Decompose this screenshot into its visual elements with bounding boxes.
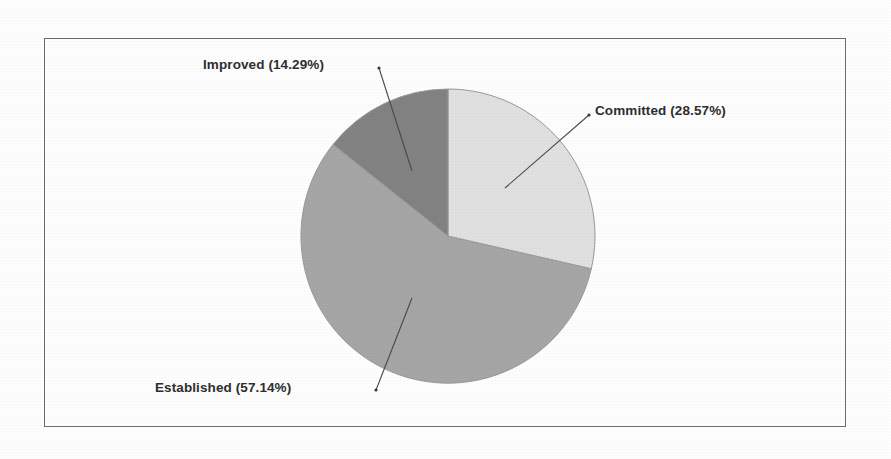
pie-chart-graphic (0, 0, 891, 459)
leader-dot-improved (377, 66, 380, 69)
leader-dot-committed (587, 113, 590, 116)
pie-label-established: Established (57.14%) (155, 381, 291, 396)
pie-chart-figure: Improved (14.29%) Committed (28.57%) Est… (0, 0, 891, 459)
leader-dot-established (374, 388, 377, 391)
pie-label-committed: Committed (28.57%) (595, 104, 726, 119)
pie-label-improved: Improved (14.29%) (203, 58, 324, 73)
